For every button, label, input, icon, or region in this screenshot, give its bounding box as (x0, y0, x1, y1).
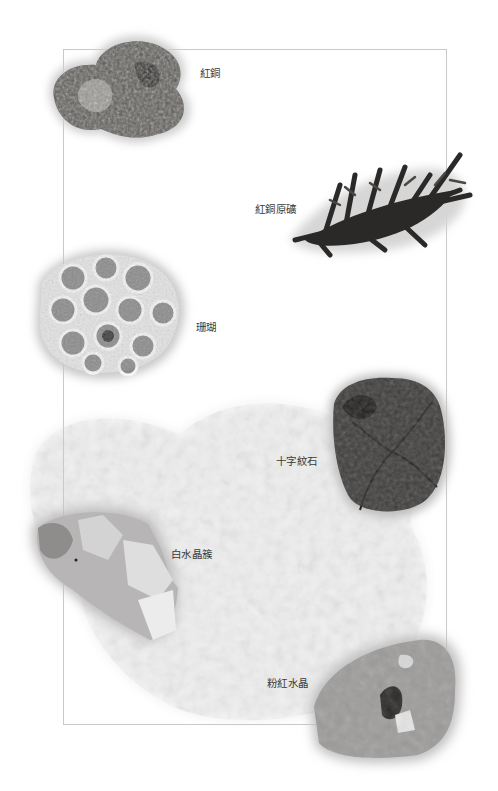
red-copper-nugget-image (40, 28, 200, 153)
dendritic-copper-ore-image (285, 145, 475, 265)
clear-quartz-cluster-image (28, 500, 188, 650)
rose-quartz-image (310, 625, 470, 785)
rose-quartz-label: 粉紅水晶 (267, 678, 308, 689)
staurolite-label: 十字紋石 (276, 456, 317, 467)
clear-quartz-cluster-label: 白水晶簇 (171, 549, 212, 560)
red-copper-label: 紅銅 (200, 68, 221, 79)
red-copper-ore-label: 紅銅原礦 (255, 204, 296, 215)
coral-label: 珊瑚 (196, 322, 217, 333)
staurolite-cross-stone-image (322, 362, 457, 522)
mineral-illustration-page: 紅銅 (0, 0, 498, 791)
coral-fossil-image (28, 238, 193, 388)
